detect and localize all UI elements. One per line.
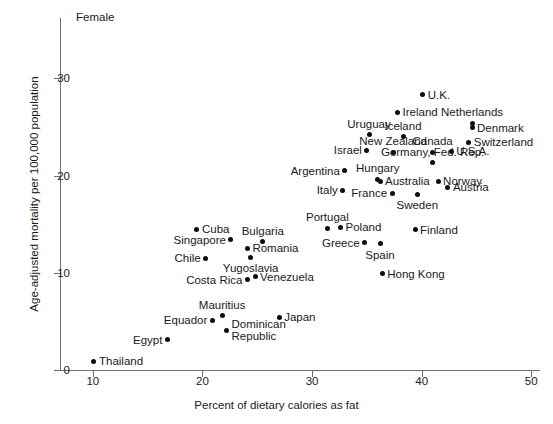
data-point-label: Singapore bbox=[174, 234, 226, 246]
data-point-label: Romania bbox=[252, 242, 298, 254]
data-point-label: U.K. bbox=[428, 89, 450, 101]
data-labels-layer: ThailandEgyptEquadorMauritiusDominican R… bbox=[0, 0, 553, 424]
data-point-label: Israel bbox=[334, 144, 362, 156]
data-point-label: Netherlands bbox=[441, 106, 503, 118]
x-axis-title: Percent of dietary calories as fat bbox=[0, 399, 553, 411]
data-point-label: Ireland bbox=[403, 106, 438, 118]
data-point-label: Argentina bbox=[291, 165, 340, 177]
data-point-label: Denmark bbox=[477, 122, 524, 134]
data-point-label: Chile bbox=[175, 252, 201, 264]
data-point-label: Dominican Republic bbox=[232, 318, 286, 342]
data-point-label: Thailand bbox=[99, 355, 143, 367]
data-point-label: Switzerland bbox=[474, 136, 533, 148]
data-point-label: Australia bbox=[385, 175, 430, 187]
data-point-label: Hong Kong bbox=[387, 268, 445, 280]
data-point-label: Costa Rica bbox=[186, 274, 242, 286]
data-point-label: Sweden bbox=[396, 199, 438, 211]
data-point-label: Spain bbox=[365, 249, 394, 261]
data-point-label: Bulgaria bbox=[242, 225, 284, 237]
data-point-label: France bbox=[351, 187, 387, 199]
data-point-label: Mauritius bbox=[199, 299, 246, 311]
data-point-label: Finland bbox=[420, 224, 458, 236]
data-point-label: Yugoslavia bbox=[223, 262, 279, 274]
data-point-label: Poland bbox=[346, 221, 382, 233]
data-point-label: Equador bbox=[164, 314, 207, 326]
data-point-label: Egypt bbox=[133, 334, 162, 346]
data-point-label: Greece bbox=[322, 237, 360, 249]
y-axis-title: Age-adjusted mortality per 100,000 popul… bbox=[28, 44, 40, 344]
data-point-label: Austria bbox=[453, 181, 489, 193]
data-point-label: New Zealand bbox=[359, 135, 427, 147]
data-point-label: Portugal bbox=[306, 211, 349, 223]
data-point-label: Italy bbox=[317, 184, 338, 196]
data-point-label: Cuba bbox=[202, 223, 230, 235]
data-point-label: Japan bbox=[284, 311, 315, 323]
data-point-label: Iceland bbox=[384, 120, 421, 132]
data-point-label: Hungary bbox=[356, 162, 399, 174]
scatter-plot-figure: Female 1020304050 0102030 ThailandEgyptE… bbox=[0, 0, 553, 424]
